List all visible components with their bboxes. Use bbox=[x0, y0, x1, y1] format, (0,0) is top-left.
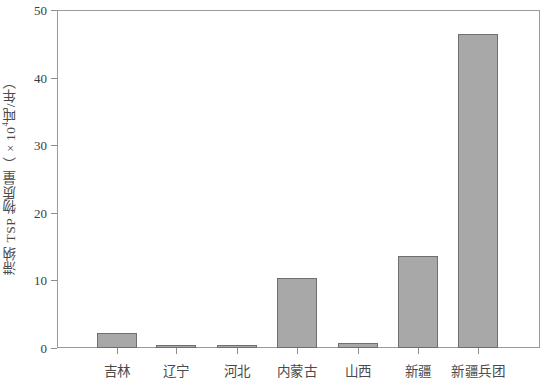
bar-河北 bbox=[217, 345, 257, 348]
x-tick-label-内蒙古: 内蒙古 bbox=[257, 360, 337, 380]
y-tick-label-40: 40 bbox=[22, 71, 47, 84]
bars-layer bbox=[57, 10, 540, 348]
x-tick-label-辽宁: 辽宁 bbox=[136, 360, 216, 380]
bar-山西 bbox=[338, 343, 378, 348]
x-tick-label-新疆兵团: 新疆兵团 bbox=[438, 360, 518, 380]
y-axis-title-text: 滞纳 TSP 物质量（×104吨/年） bbox=[1, 74, 21, 275]
bar-吉林 bbox=[97, 333, 137, 348]
bar-内蒙古 bbox=[277, 278, 317, 348]
x-tick-mark-内蒙古 bbox=[297, 348, 298, 354]
x-tick-label-吉林: 吉林 bbox=[77, 360, 157, 380]
bar-辽宁 bbox=[156, 345, 196, 348]
y-tick-label-20: 20 bbox=[22, 206, 47, 219]
y-tick-label-10: 10 bbox=[22, 274, 47, 287]
y-axis-title-prefix: 滞纳 TSP 物质量（×10 bbox=[3, 127, 18, 276]
x-tick-mark-新疆 bbox=[418, 348, 419, 354]
x-tick-mark-新疆兵团 bbox=[478, 348, 479, 354]
x-tick-label-新疆: 新疆 bbox=[378, 360, 458, 380]
x-tick-mark-山西 bbox=[358, 348, 359, 354]
bar-chart: 滞纳 TSP 物质量（×104吨/年） 01020304050吉林辽宁河北内蒙古… bbox=[0, 0, 549, 390]
y-tick-label-0: 0 bbox=[22, 342, 47, 355]
y-tick-label-30: 30 bbox=[22, 139, 47, 152]
y-axis-title-exponent: 4 bbox=[1, 122, 10, 127]
x-tick-mark-河北 bbox=[237, 348, 238, 354]
y-tick-mark-0 bbox=[51, 348, 57, 349]
x-tick-label-河北: 河北 bbox=[197, 360, 277, 380]
bar-新疆兵团 bbox=[458, 34, 498, 348]
y-axis-title-suffix: 吨/年） bbox=[3, 74, 18, 122]
bar-新疆 bbox=[398, 256, 438, 348]
x-tick-mark-辽宁 bbox=[176, 348, 177, 354]
x-tick-mark-吉林 bbox=[117, 348, 118, 354]
x-tick-label-山西: 山西 bbox=[318, 360, 398, 380]
y-tick-label-50: 50 bbox=[22, 4, 47, 17]
y-axis-title: 滞纳 TSP 物质量（×104吨/年） bbox=[0, 0, 22, 350]
